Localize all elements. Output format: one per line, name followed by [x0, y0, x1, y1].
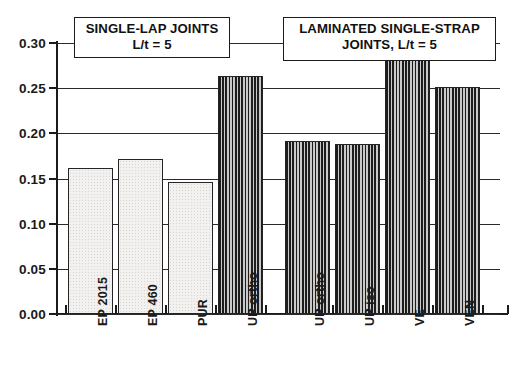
annotation-left-line1: SINGLE-LAP JOINTS [86, 21, 219, 36]
y-tick-mark [49, 132, 58, 134]
category-label-5: UP iso [363, 286, 377, 326]
y-tick-mark [49, 178, 58, 180]
y-gridline [57, 314, 500, 315]
x-tick-6 [382, 305, 384, 314]
x-tick-1 [115, 305, 117, 314]
x-tick-3 [215, 305, 217, 314]
category-label-2: PUR [196, 299, 210, 326]
y-tick-label: 0.05 [19, 261, 46, 276]
category-label-4: UP ortho [313, 272, 327, 326]
category-label-1: EP 460 [146, 284, 160, 326]
annotation-right-line1: LAMINATED SINGLE-STRAP [299, 21, 480, 36]
y-tick-label: 0.10 [19, 216, 46, 231]
y-tick-label: 0.00 [19, 307, 46, 322]
y-tick-mark [49, 42, 58, 44]
annotation-box-laminated-single-strap: LAMINATED SINGLE-STRAP JOINTS, L/t = 5 [283, 17, 496, 61]
x-tick-9 [507, 305, 509, 314]
x-tick-8 [482, 305, 484, 314]
bar-ve-6 [385, 57, 430, 314]
category-label-3: UP ortho [246, 272, 260, 326]
y-tick-mark [49, 223, 58, 225]
y-tick-label: 0.25 [19, 81, 46, 96]
y-tick-mark [49, 313, 58, 315]
figure-bar-chart: 0.300.250.200.150.100.050.00 EP 2015EP 4… [0, 0, 518, 390]
y-tick-label: 0.30 [19, 36, 46, 51]
annotation-box-single-lap: SINGLE-LAP JOINTS L/t = 5 [74, 17, 230, 58]
category-label-6: VE [413, 309, 427, 326]
x-tick-4 [265, 305, 267, 314]
x-tick-0 [65, 305, 67, 314]
x-tick-2 [165, 305, 167, 314]
y-tick-label: 0.20 [19, 126, 46, 141]
annotation-left-line2: L/t = 5 [75, 37, 229, 53]
y-tick-label: 0.15 [19, 171, 46, 186]
plot-area: 0.300.250.200.150.100.050.00 [57, 43, 500, 314]
x-tick-5 [332, 305, 334, 314]
figure-caption [38, 381, 478, 390]
category-label-0: EP 2015 [96, 277, 110, 326]
bar-pur-2 [168, 182, 213, 314]
category-label-7: VEN [463, 300, 477, 326]
y-tick-mark [49, 268, 58, 270]
y-tick-mark [49, 87, 58, 89]
annotation-right-line2: JOINTS, L/t = 5 [284, 37, 495, 53]
bar-ven-7 [435, 87, 480, 314]
x-tick-7 [432, 305, 434, 314]
